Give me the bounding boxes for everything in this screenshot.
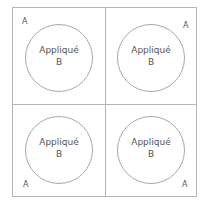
quadrant-grid: A Appliqué B A Appliqué B A Appliqué B A… xyxy=(12,7,197,197)
circle-label: Appliqué xyxy=(26,45,92,56)
circle-b: Appliqué B xyxy=(117,24,185,92)
corner-label-a: A xyxy=(22,17,27,26)
circle-sublabel: B xyxy=(118,149,184,160)
corner-label-a: A xyxy=(23,180,28,189)
circle-b: Appliqué B xyxy=(25,24,93,92)
circle-label: Appliqué xyxy=(26,137,92,148)
cell-top-left: A Appliqué B xyxy=(13,8,105,104)
circle-sublabel: B xyxy=(118,57,184,68)
corner-label-a: A xyxy=(183,21,188,30)
circle-sublabel: B xyxy=(26,57,92,68)
cell-top-right: A Appliqué B xyxy=(106,8,198,104)
circle-b: Appliqué B xyxy=(117,116,185,184)
cell-bottom-right: A Appliqué B xyxy=(106,105,198,201)
cell-bottom-left: A Appliqué B xyxy=(13,105,105,201)
circle-label: Appliqué xyxy=(118,45,184,56)
circle-b: Appliqué B xyxy=(25,116,93,184)
circle-label: Appliqué xyxy=(118,137,184,148)
corner-label-a: A xyxy=(182,180,187,189)
circle-sublabel: B xyxy=(26,149,92,160)
